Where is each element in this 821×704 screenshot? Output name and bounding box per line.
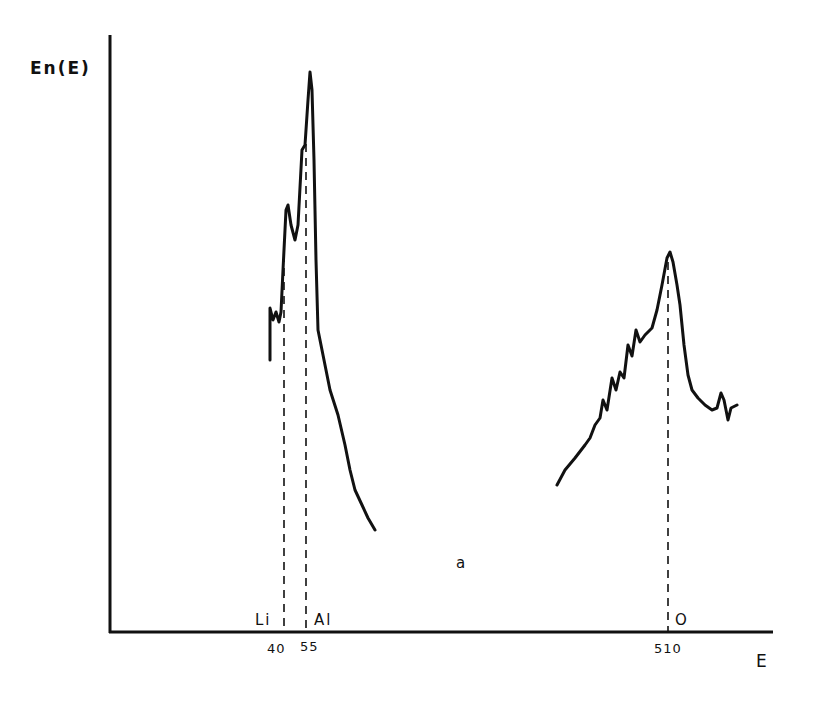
x-axis-label: E bbox=[756, 651, 767, 671]
o-spectrum-curve bbox=[557, 252, 737, 485]
al-annotation: Al bbox=[314, 611, 332, 629]
li-al-spectrum-curve bbox=[270, 72, 375, 530]
tick-label-40: 40 bbox=[267, 641, 286, 656]
panel-label: a bbox=[456, 554, 465, 572]
o-annotation: O bbox=[675, 611, 689, 629]
y-axis-label: En(E) bbox=[30, 58, 91, 78]
li-annotation: Li bbox=[255, 611, 272, 629]
tick-label-55: 55 bbox=[300, 639, 319, 654]
tick-label-510: 510 bbox=[654, 641, 682, 656]
spectrum-chart bbox=[0, 0, 821, 704]
